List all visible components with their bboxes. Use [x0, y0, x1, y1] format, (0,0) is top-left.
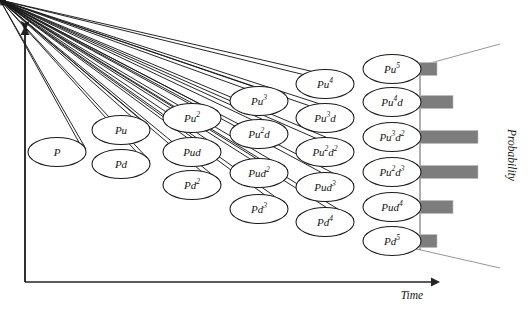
tree-node-Pu3d: Pu3d: [296, 104, 354, 133]
tree-node-Pu3d2: Pu3d2: [363, 123, 421, 152]
tree-node-Pud2: Pud2: [230, 159, 288, 188]
node-label-Pu2d: Pu2d: [247, 125, 270, 139]
node-label-Pu3d: Pu3d: [313, 109, 336, 123]
y-axis-label: Probability: [505, 128, 518, 182]
tree-node-Pu2d: Pu2d: [230, 120, 288, 149]
axis-labels: TimeProbability: [401, 128, 518, 301]
diagram-canvas: PPuPdPu2PudPd2Pu3Pu2dPud2Pd3Pu4Pu3dPu2d2…: [0, 0, 532, 316]
bar-Pud4: [420, 201, 453, 214]
tree-node-Pu: Pu: [92, 116, 150, 145]
tree-node-Pud3: Pud3: [296, 173, 354, 202]
edge-c4-n1-to-2: [0, 0, 354, 121]
edge-c3-n1-to-2: [0, 0, 288, 137]
node-label-Pud: Pud: [182, 145, 201, 157]
bar-Pd5: [420, 235, 437, 248]
binomial-tree-figure: PPuPdPu2PudPd2Pu3Pu2dPud2Pd3Pu4Pu3dPu2d2…: [0, 0, 532, 316]
tree-node-Pud: Pud: [163, 138, 221, 167]
node-label-Pu4d: Pu4d: [380, 93, 403, 107]
tree-node-P: P: [28, 138, 86, 167]
bar-Pu3d2: [420, 131, 478, 144]
tree-node-Pu3: Pu3: [230, 87, 288, 116]
tree-node-Pd5: Pd5: [363, 227, 421, 256]
tree-node-Pu2d2: Pu2d2: [296, 138, 354, 167]
node-label-P: P: [53, 145, 61, 157]
x-axis-label: Time: [401, 289, 423, 301]
bar-Pu5: [420, 63, 437, 76]
tree-node-Pud4: Pud4: [363, 193, 421, 222]
tree-node-Pd3: Pd3: [230, 195, 288, 224]
tree-node-Pu2d3: Pu2d3: [363, 158, 421, 187]
fan-line-2: [412, 248, 500, 268]
tree-node-Pu4d: Pu4d: [363, 88, 421, 117]
tree-node-Pu4: Pu4: [296, 70, 354, 99]
tree-node-Pd4: Pd4: [296, 208, 354, 237]
tree-node-Pu5: Pu5: [363, 55, 421, 84]
tree-nodes: PPuPdPu2PudPd2Pu3Pu2dPud2Pd3Pu4Pu3dPu2d2…: [28, 55, 421, 256]
tree-node-Pd: Pd: [92, 150, 150, 179]
node-label-Pu: Pu: [114, 123, 128, 135]
bar-Pu2d3: [420, 166, 478, 179]
probability-bars: [420, 62, 478, 250]
tree-node-Pu2: Pu2: [163, 104, 221, 133]
tree-node-Pd2: Pd2: [163, 171, 221, 200]
x-axis-arrowhead: [431, 278, 440, 287]
bar-Pu4d: [420, 96, 453, 109]
edge-c4-n0-to-0: [0, 0, 354, 81]
node-label-Pd: Pd: [114, 157, 128, 169]
